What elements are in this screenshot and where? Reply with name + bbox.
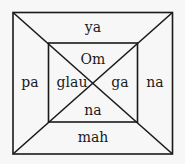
- label-outer-top: ya: [84, 19, 101, 35]
- label-inner-right: ga: [111, 74, 128, 90]
- label-outer-right: na: [146, 74, 163, 90]
- yantra-diagram: ya pa na mah Om glau ga na: [0, 0, 185, 164]
- label-outer-left: pa: [21, 74, 38, 90]
- label-inner-top: Om: [81, 51, 106, 67]
- label-outer-bottom: mah: [78, 129, 109, 145]
- label-inner-left: glau: [57, 74, 88, 90]
- label-inner-bottom: na: [84, 102, 101, 118]
